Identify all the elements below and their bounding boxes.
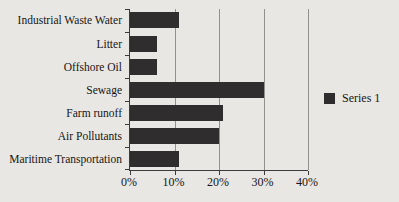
category-label-sewage: Sewage	[0, 82, 122, 98]
legend: Series 1	[324, 91, 380, 106]
category-label-offshore-oil: Offshore Oil	[0, 59, 122, 75]
y-axis-tick-4	[125, 101, 129, 102]
pollution-bar-chart: Industrial Waste WaterLitterOffshore Oil…	[0, 0, 399, 202]
y-axis-tick-2	[125, 55, 129, 56]
y-axis-tick-0	[125, 9, 129, 10]
x-tick-label-40pct: 40%	[296, 174, 318, 190]
gridline-40pct	[308, 9, 309, 170]
gridline-30pct	[264, 9, 265, 170]
percent-axis-labels: 0%10%20%30%40%	[129, 174, 307, 192]
bar-farm-runoff	[130, 105, 223, 121]
y-axis-tick-1	[125, 32, 129, 33]
bar-maritime-transportation	[130, 151, 179, 167]
category-label-industrial-waste-water: Industrial Waste Water	[0, 12, 122, 28]
bar-air-pollutants	[130, 128, 219, 144]
x-tick-label-0pct: 0%	[121, 174, 137, 190]
y-axis-tick-3	[125, 78, 129, 79]
y-axis-tick-7	[125, 169, 129, 170]
bar-industrial-waste-water	[130, 12, 179, 28]
category-axis-labels: Industrial Waste WaterLitterOffshore Oil…	[0, 9, 124, 170]
legend-label: Series 1	[342, 91, 380, 106]
x-tick-label-20pct: 20%	[207, 174, 229, 190]
bar-litter	[130, 36, 157, 52]
plot-area	[129, 9, 308, 171]
category-label-air-pollutants: Air Pollutants	[0, 128, 122, 144]
category-label-litter: Litter	[0, 36, 122, 52]
x-tick-label-10pct: 10%	[163, 174, 185, 190]
y-axis-tick-6	[125, 147, 129, 148]
legend-swatch	[324, 93, 335, 104]
category-label-farm-runoff: Farm runoff	[0, 105, 122, 121]
category-label-maritime-transportation: Maritime Transportation	[0, 151, 122, 167]
y-axis-tick-5	[125, 124, 129, 125]
x-tick-label-30pct: 30%	[252, 174, 274, 190]
bar-sewage	[130, 82, 264, 98]
bar-offshore-oil	[130, 59, 157, 75]
